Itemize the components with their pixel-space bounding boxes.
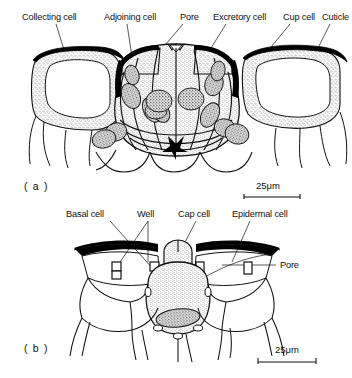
well-box-left <box>112 262 121 271</box>
panel-a-id: ( a ) <box>24 180 49 192</box>
well-box-left-2 <box>112 271 121 279</box>
nucleus <box>178 88 204 110</box>
label-cap-cell: Cap cell <box>178 209 210 219</box>
epidermal-cell-right-lumen <box>256 58 330 117</box>
label-basal-cell: Basal cell <box>66 209 104 219</box>
panel-a-scale-text: 25μm <box>256 180 280 191</box>
label-well: Well <box>137 209 154 219</box>
figure-root: Collecting cell Adjoining cell Pore Excr… <box>0 0 352 378</box>
label-pore-b: Pore <box>280 260 299 270</box>
label-cup-cell: Cup cell <box>283 12 315 22</box>
label-pore: Pore <box>180 12 199 22</box>
label-collecting-cell: Collecting cell <box>22 12 77 22</box>
collecting-cell-left-lumen <box>45 60 110 118</box>
label-adjoining-cell: Adjoining cell <box>104 12 156 22</box>
panel-b-id: ( b ) <box>24 342 49 354</box>
nucleus <box>146 90 172 112</box>
label-excretory-cell: Excretory cell <box>213 12 266 22</box>
panel-a-label-group: Collecting cell Adjoining cell Pore Excr… <box>22 12 349 22</box>
label-cuticle: Cuticle <box>322 12 349 22</box>
panel-b-scale-text: 25μm <box>275 344 299 355</box>
label-epidermal-cell: Epidermal cell <box>232 209 288 219</box>
well-box-far-right <box>244 262 252 274</box>
